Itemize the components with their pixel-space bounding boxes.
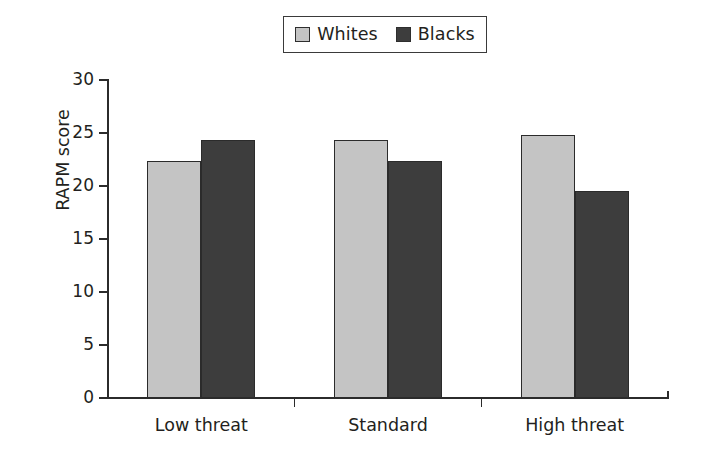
y-tick-mark [99,344,108,346]
x-category-label: High threat [481,415,668,435]
y-tick-label: 0 [52,387,94,407]
y-tick-label: 20 [52,175,94,195]
legend-label-whites: Whites [317,26,378,44]
legend-item-whites: Whites [295,26,378,44]
y-tick-mark [99,79,108,81]
bar-whites-low-threat [147,161,201,398]
y-tick-label: 10 [52,281,94,301]
bar-blacks-high-threat [575,191,629,398]
y-tick-mark [99,132,108,134]
bar-blacks-standard [388,161,442,398]
y-axis-title: RAPM score [53,70,73,250]
y-tick-mark [99,291,108,293]
x-axis-end-tick [667,391,669,399]
bar-blacks-low-threat [201,140,255,398]
legend-swatch-whites-icon [295,27,310,42]
bar-whites-high-threat [521,135,575,398]
y-tick-mark [99,238,108,240]
legend-item-blacks: Blacks [396,26,475,44]
y-tick-mark [99,185,108,187]
x-category-label: Standard [295,415,482,435]
legend-swatch-blacks-icon [396,27,411,42]
x-tick-mark [481,398,483,407]
x-category-label: Low threat [108,415,295,435]
x-tick-mark [294,398,296,407]
legend-label-blacks: Blacks [418,26,475,44]
chart-legend: Whites Blacks [283,16,487,53]
bar-chart: Whites Blacks RAPM score 051015202530 Lo… [0,0,704,453]
y-tick-label: 25 [52,122,94,142]
y-tick-label: 5 [52,334,94,354]
bar-whites-standard [334,140,388,398]
y-tick-mark [99,397,108,399]
y-tick-label: 15 [52,228,94,248]
y-tick-label: 30 [52,69,94,89]
